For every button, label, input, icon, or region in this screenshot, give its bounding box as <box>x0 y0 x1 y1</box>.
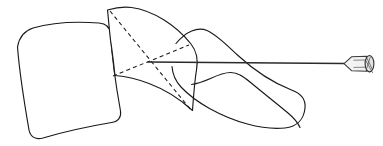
needle-hub-body <box>344 56 367 71</box>
pedicle-outline <box>108 7 198 110</box>
vertebral-body-outline <box>18 22 121 138</box>
posterior-elements-lower-edge <box>192 73 301 128</box>
vertebra-needle-diagram: Lateral vertebral line drawing with tran… <box>0 0 383 146</box>
needle-hub <box>344 56 374 74</box>
figure-root: Lateral vertebral line drawing with tran… <box>0 0 383 146</box>
